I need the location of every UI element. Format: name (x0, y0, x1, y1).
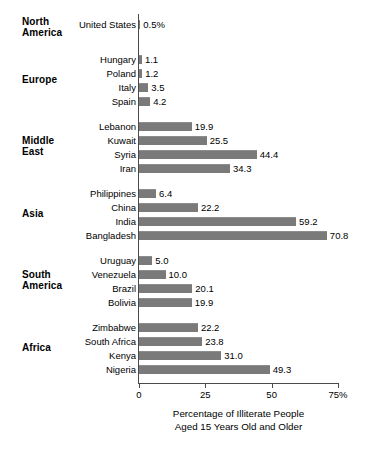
x-axis-line (138, 383, 338, 384)
bar-value-label: 31.0 (221, 349, 243, 362)
bar (139, 337, 202, 346)
country-label: Bolivia (6, 296, 136, 309)
bar-value-label: 34.3 (230, 162, 252, 175)
bar-row: Syria44.4 (0, 148, 371, 161)
bar (139, 298, 192, 307)
bar (139, 284, 192, 293)
plot-area: North AmericaEuropeMiddle EastAsiaSouth … (0, 0, 371, 451)
bar-row: Kuwait25.5 (0, 134, 371, 147)
y-axis-line (138, 14, 139, 383)
bar-row: Bangladesh70.8 (0, 229, 371, 242)
bar-value-label: 1.2 (142, 67, 158, 80)
bar-row: South Africa23.8 (0, 335, 371, 348)
bar-value-label: 19.9 (192, 296, 214, 309)
bar-value-label: 10.0 (166, 268, 188, 281)
bar-row: Italy3.5 (0, 81, 371, 94)
country-label: Kenya (6, 349, 136, 362)
x-axis-caption-line-2: Aged 15 Years Old and Older (139, 421, 338, 434)
x-axis-tick-label: 0 (136, 389, 141, 401)
bar-row: Poland1.2 (0, 67, 371, 80)
country-label: China (6, 201, 136, 214)
country-label: Syria (6, 148, 136, 161)
bar-value-label: 22.2 (198, 321, 220, 334)
bar-row: Philippines6.4 (0, 187, 371, 200)
country-label: Iran (6, 162, 136, 175)
bar-row: Kenya31.0 (0, 349, 371, 362)
bar-row: Lebanon19.9 (0, 120, 371, 133)
country-label: Lebanon (6, 120, 136, 133)
country-label: Nigeria (6, 363, 136, 376)
bar-row: United States0.5% (0, 18, 371, 31)
bar (139, 136, 207, 145)
bar-value-label: 49.3 (270, 363, 292, 376)
x-axis-tick-label: 50 (266, 389, 277, 401)
bar (139, 150, 257, 159)
bar-value-label: 22.2 (198, 201, 220, 214)
country-label: India (6, 215, 136, 228)
bar-value-label: 70.8 (327, 229, 349, 242)
bar-row: Uruguay5.0 (0, 254, 371, 267)
bar (139, 203, 198, 212)
x-axis-tick (205, 383, 206, 388)
bar (139, 217, 296, 226)
bar (139, 122, 192, 131)
bar-value-label: 20.1 (192, 282, 214, 295)
x-axis-tick-label: 75% (328, 389, 347, 401)
bar-row: Zimbabwe22.2 (0, 321, 371, 334)
bar-row: Bolivia19.9 (0, 296, 371, 309)
country-label: Poland (6, 67, 136, 80)
country-label: Bangladesh (6, 229, 136, 242)
bar (139, 189, 156, 198)
bar-value-label: 25.5 (207, 134, 229, 147)
country-label: Hungary (6, 53, 136, 66)
x-axis-caption-line-1: Percentage of Illiterate People (139, 408, 338, 421)
bar-value-label: 6.4 (156, 187, 172, 200)
bar (139, 323, 198, 332)
bar (139, 231, 327, 240)
bar-row: Iran34.3 (0, 162, 371, 175)
bar-row: China22.2 (0, 201, 371, 214)
bar-value-label: 23.8 (202, 335, 224, 348)
bar-value-label: 0.5% (140, 18, 165, 31)
bar (139, 256, 152, 265)
x-axis-tick (272, 383, 273, 388)
bar-value-label: 4.2 (150, 95, 166, 108)
bar (139, 164, 230, 173)
bar-value-label: 19.9 (192, 120, 214, 133)
x-axis-tick-label: 25 (200, 389, 211, 401)
country-label: Uruguay (6, 254, 136, 267)
country-label: Brazil (6, 282, 136, 295)
bar-value-label: 1.1 (142, 53, 158, 66)
bar (139, 270, 166, 279)
country-label: Italy (6, 81, 136, 94)
country-label: Kuwait (6, 134, 136, 147)
x-axis-tick (338, 383, 339, 388)
x-axis-caption: Percentage of Illiterate People Aged 15 … (139, 408, 338, 433)
bar-value-label: 44.4 (257, 148, 279, 161)
bar (139, 97, 150, 106)
country-label: United States (6, 18, 136, 31)
bar-row: Spain4.2 (0, 95, 371, 108)
country-label: Zimbabwe (6, 321, 136, 334)
x-axis-tick (139, 383, 140, 388)
bar-value-label: 59.2 (296, 215, 318, 228)
illiteracy-bar-chart: North AmericaEuropeMiddle EastAsiaSouth … (0, 0, 371, 451)
bar-row: India59.2 (0, 215, 371, 228)
bar (139, 83, 148, 92)
country-label: Philippines (6, 187, 136, 200)
bar-value-label: 5.0 (152, 254, 168, 267)
bar (139, 351, 221, 360)
bar-value-label: 3.5 (148, 81, 164, 94)
country-label: Venezuela (6, 268, 136, 281)
country-label: South Africa (6, 335, 136, 348)
country-label: Spain (6, 95, 136, 108)
bar-row: Nigeria49.3 (0, 363, 371, 376)
bar-row: Brazil20.1 (0, 282, 371, 295)
bar (139, 365, 270, 374)
bar-row: Venezuela10.0 (0, 268, 371, 281)
bar-row: Hungary1.1 (0, 53, 371, 66)
